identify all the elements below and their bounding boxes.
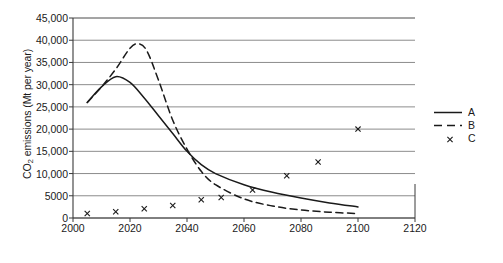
data-marker-x	[113, 209, 118, 214]
legend-item-c: C	[432, 132, 494, 145]
legend-swatch-b	[432, 119, 464, 132]
figure-co2-emissions-chart: CO2 emissions (Mt per year) 0500010,0001…	[0, 0, 503, 263]
x-tick-label: 2040	[164, 223, 210, 234]
x-tick-label: 2080	[278, 223, 324, 234]
x-tick-label: 2000	[50, 223, 96, 234]
x-tick-label: 2100	[335, 223, 381, 234]
data-marker-x	[142, 206, 147, 211]
legend-item-b: B	[432, 119, 494, 132]
data-marker-x	[199, 197, 204, 202]
legend-swatch-a	[432, 106, 464, 119]
data-marker-x	[85, 211, 90, 216]
chart-legend: ABC	[432, 106, 494, 145]
data-line-b	[87, 44, 358, 214]
x-tick-label: 2120	[392, 223, 438, 234]
legend-label: C	[468, 132, 476, 145]
data-marker-x	[316, 159, 321, 164]
x-tick-label: 2020	[107, 223, 153, 234]
data-marker-x	[250, 187, 255, 192]
x-axis-tick-labels: 2000202020402060208021002120	[0, 223, 503, 239]
data-marker-x	[170, 203, 175, 208]
x-tick-label: 2060	[221, 223, 267, 234]
data-line-a	[87, 77, 358, 207]
legend-label: A	[468, 106, 475, 119]
data-marker-x	[284, 173, 289, 178]
legend-item-a: A	[432, 106, 494, 119]
legend-label: B	[468, 119, 475, 132]
legend-swatch-c	[432, 132, 464, 145]
